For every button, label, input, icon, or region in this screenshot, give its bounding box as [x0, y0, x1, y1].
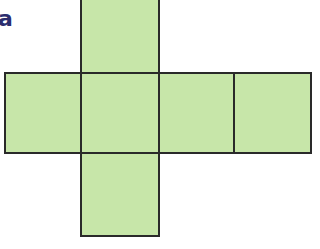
figure-label: a: [0, 8, 13, 30]
square-bottom: [80, 152, 160, 237]
square-right-outer: [233, 72, 312, 154]
square-top: [80, 0, 160, 75]
square-center: [80, 72, 160, 154]
square-right-inner: [158, 72, 235, 154]
square-left: [4, 72, 82, 154]
